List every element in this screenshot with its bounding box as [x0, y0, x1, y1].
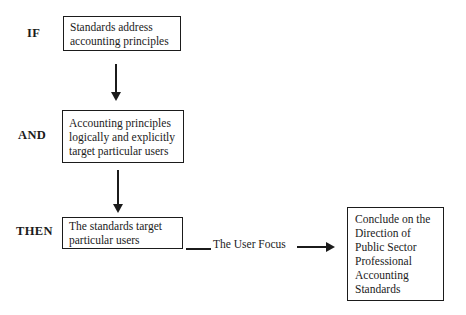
- box-conclusion-text: Conclude on the Direction of Public Sect…: [355, 212, 430, 296]
- arrow-shaft: [297, 246, 326, 248]
- box-standards-address: Standards address accounting principles: [63, 16, 181, 51]
- arrow-head: [113, 204, 123, 213]
- box-conclusion: Conclude on the Direction of Public Sect…: [347, 207, 444, 301]
- label-and: AND: [18, 128, 46, 143]
- box-standards-target: The standards target particular users: [62, 217, 183, 249]
- connector-line: [186, 248, 211, 250]
- flowchart-canvas: IF Standards address accounting principl…: [0, 0, 466, 315]
- arrow-down-icon: [112, 170, 123, 213]
- label-then: THEN: [16, 224, 53, 239]
- arrow-shaft: [115, 64, 117, 92]
- box-accounting-principles-text: Accounting principles logically and expl…: [69, 116, 175, 158]
- label-if: IF: [27, 26, 40, 41]
- box-standards-address-text: Standards address accounting principles: [70, 20, 169, 48]
- box-standards-target-text: The standards target particular users: [69, 219, 162, 247]
- arrow-right-icon: [297, 242, 335, 252]
- arrow-head: [326, 242, 335, 252]
- box-accounting-principles: Accounting principles logically and expl…: [62, 110, 184, 163]
- arrow-down-icon: [110, 64, 121, 101]
- connector-label-user-focus: The User Focus: [213, 238, 286, 250]
- arrow-shaft: [117, 170, 119, 204]
- arrow-head: [111, 92, 121, 101]
